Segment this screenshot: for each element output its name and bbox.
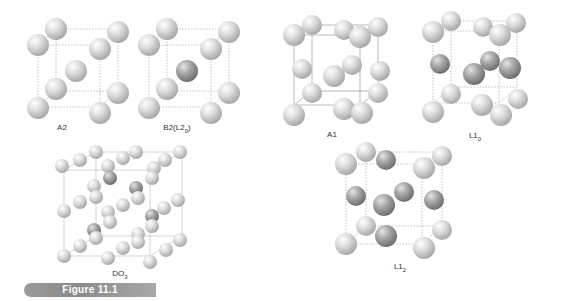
a1-unit-cell-diagram <box>280 5 385 120</box>
atom-spheres <box>55 145 187 269</box>
do3-unit-cell-diagram <box>50 138 190 268</box>
a2-label: A2 <box>32 123 92 132</box>
structure-a1: A1 <box>280 5 385 135</box>
l12-unit-cell-diagram <box>330 138 460 258</box>
atom-spheres <box>335 142 452 259</box>
figure-caption-bar: Figure 11.1 <box>24 283 156 297</box>
a2-unit-cell-diagram <box>20 5 120 120</box>
l10-unit-cell-diagram <box>420 5 530 120</box>
structure-b2: B2(L20) <box>135 5 235 135</box>
l12-label: L12 <box>370 262 430 273</box>
atom-spheres <box>27 18 129 124</box>
structure-l12: L12 <box>330 138 460 273</box>
b2-unit-cell-diagram <box>135 5 235 120</box>
atom-spheres <box>422 11 528 126</box>
structure-do3: DO3 <box>50 138 190 278</box>
atom-spheres <box>283 15 390 126</box>
figure-caption-label: Figure 11.1 <box>24 283 156 297</box>
structure-a2: A2 <box>20 5 120 135</box>
atom-spheres <box>138 18 240 124</box>
do3-label: DO3 <box>90 269 150 280</box>
b2-label: B2(L20) <box>147 123 207 134</box>
structure-l10: L10 <box>420 5 530 135</box>
